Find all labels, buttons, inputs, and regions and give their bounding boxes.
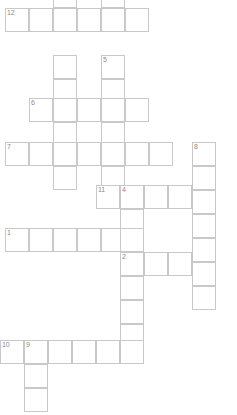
crossword-cell[interactable] — [29, 8, 53, 32]
crossword-cell-numbered[interactable]: 1 — [5, 228, 29, 252]
crossword-cell-numbered[interactable]: 4 — [120, 185, 144, 209]
crossword-grid[interactable]: 12567811412109 — [0, 0, 237, 415]
cell-number: 12 — [7, 9, 14, 17]
crossword-cell[interactable] — [101, 8, 125, 32]
crossword-cell[interactable] — [53, 228, 77, 252]
crossword-cell[interactable] — [77, 98, 101, 122]
crossword-cell[interactable] — [96, 340, 120, 364]
crossword-cell[interactable] — [29, 142, 53, 166]
crossword-cell[interactable] — [168, 252, 192, 276]
crossword-cell[interactable] — [149, 142, 173, 166]
crossword-cell[interactable] — [192, 238, 216, 262]
crossword-cell[interactable] — [192, 214, 216, 238]
crossword-cell[interactable] — [101, 0, 125, 8]
crossword-cell[interactable] — [125, 8, 149, 32]
crossword-cell[interactable] — [29, 228, 53, 252]
crossword-cell-numbered[interactable]: 8 — [192, 142, 216, 166]
crossword-cell[interactable] — [120, 228, 144, 252]
crossword-cell[interactable] — [125, 98, 149, 122]
crossword-cell[interactable] — [53, 0, 77, 8]
crossword-cell[interactable] — [77, 228, 101, 252]
crossword-cell[interactable] — [53, 142, 77, 166]
crossword-cell[interactable] — [53, 166, 77, 190]
cell-number: 6 — [31, 99, 35, 107]
crossword-cell-numbered[interactable]: 5 — [101, 55, 125, 79]
cell-number: 4 — [122, 186, 126, 194]
crossword-cell[interactable] — [101, 142, 125, 166]
crossword-cell[interactable] — [48, 340, 72, 364]
crossword-cell[interactable] — [53, 8, 77, 32]
cell-number: 2 — [122, 253, 126, 261]
crossword-cell[interactable] — [77, 142, 101, 166]
cell-number: 10 — [2, 341, 9, 349]
crossword-cell[interactable] — [125, 142, 149, 166]
crossword-cell-numbered[interactable]: 7 — [5, 142, 29, 166]
crossword-cell[interactable] — [24, 364, 48, 388]
cell-number: 1 — [7, 229, 11, 237]
cell-number: 8 — [194, 143, 198, 151]
crossword-cell-numbered[interactable]: 9 — [24, 340, 48, 364]
crossword-cell[interactable] — [144, 185, 168, 209]
crossword-cell[interactable] — [77, 8, 101, 32]
crossword-cell-numbered[interactable]: 6 — [29, 98, 53, 122]
crossword-cell-numbered[interactable]: 10 — [0, 340, 24, 364]
crossword-cell[interactable] — [168, 185, 192, 209]
crossword-cell[interactable] — [101, 98, 125, 122]
crossword-cell[interactable] — [53, 98, 77, 122]
crossword-cell[interactable] — [120, 276, 144, 300]
crossword-cell[interactable] — [144, 252, 168, 276]
crossword-cell[interactable] — [192, 286, 216, 310]
crossword-cell[interactable] — [192, 262, 216, 286]
crossword-cell[interactable] — [24, 388, 48, 412]
crossword-cell[interactable] — [120, 300, 144, 324]
crossword-cell[interactable] — [120, 340, 144, 364]
crossword-cell[interactable] — [192, 190, 216, 214]
crossword-cell[interactable] — [72, 340, 96, 364]
crossword-cell[interactable] — [53, 55, 77, 79]
crossword-cell-numbered[interactable]: 2 — [120, 252, 144, 276]
cell-number: 9 — [26, 341, 30, 349]
cell-number: 7 — [7, 143, 11, 151]
crossword-cell-numbered[interactable]: 11 — [96, 185, 120, 209]
crossword-cell[interactable] — [192, 166, 216, 190]
cell-number: 5 — [103, 56, 107, 64]
cell-number: 11 — [98, 186, 105, 194]
crossword-cell-numbered[interactable]: 12 — [5, 8, 29, 32]
